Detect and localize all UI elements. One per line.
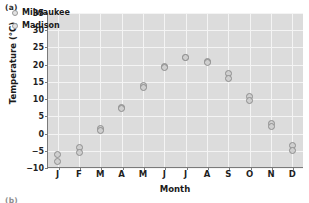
data-point (76, 149, 83, 156)
data-point (54, 151, 61, 158)
legend-item: Milwaukee (12, 6, 70, 19)
figure-panel-a: (a) −10−505101520253035 JFMAMJJASOND Tem… (0, 0, 309, 203)
data-point (140, 84, 147, 91)
x-axis-ticks: JFMAMJJASOND (47, 169, 303, 183)
gridline-vertical (271, 13, 272, 168)
data-point (182, 54, 189, 61)
gridline-vertical (228, 13, 229, 168)
x-axis-title: Month (47, 184, 303, 194)
gridline-vertical (58, 13, 59, 168)
gridline-horizontal (47, 82, 303, 83)
x-axis-tick-label: D (280, 169, 304, 179)
data-point (161, 64, 168, 71)
gridline-horizontal (47, 99, 303, 100)
gridline-vertical (164, 13, 165, 168)
data-point (54, 158, 61, 165)
plot-area (47, 13, 303, 168)
data-point (118, 105, 125, 112)
gridline-horizontal (47, 30, 303, 31)
data-point (204, 59, 211, 66)
data-point (225, 75, 232, 82)
y-axis-tick-label: −10 (2, 164, 44, 173)
gridline-horizontal (47, 47, 303, 48)
panel-label-b: (b) (5, 196, 18, 203)
data-point (268, 123, 275, 130)
gridline-horizontal (47, 134, 303, 135)
legend-item: Madison (12, 19, 70, 32)
gridline-vertical (100, 13, 101, 168)
gridline-vertical (186, 13, 187, 168)
data-point (289, 147, 296, 154)
y-axis-tick-label: −5 (2, 146, 44, 155)
legend-marker-icon (12, 10, 18, 16)
legend: MilwaukeeMadison (12, 6, 70, 32)
gridline-horizontal (47, 13, 303, 14)
gridline-horizontal (47, 116, 303, 117)
data-point (246, 97, 253, 104)
gridline-horizontal (47, 65, 303, 66)
gridline-vertical (122, 13, 123, 168)
gridline-horizontal (47, 151, 303, 152)
legend-marker-icon (12, 23, 18, 29)
gridline-vertical (250, 13, 251, 168)
gridline-vertical (207, 13, 208, 168)
legend-label: Madison (22, 21, 60, 30)
y-axis-ticks: −10−505101520253035 (0, 13, 44, 168)
legend-label: Milwaukee (22, 8, 70, 17)
y-axis-tick-label: 0 (2, 129, 44, 138)
